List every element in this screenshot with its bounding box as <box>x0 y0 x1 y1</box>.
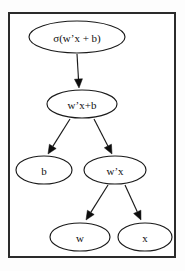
graph-node-wx[interactable]: w’x <box>84 156 146 184</box>
node-label-b: b <box>41 165 47 177</box>
arrowhead-icon <box>134 210 141 220</box>
node-label-w: w <box>76 232 84 244</box>
edge-line <box>125 185 137 212</box>
node-label-x: x <box>142 232 148 244</box>
arrowhead-icon <box>104 144 112 154</box>
node-label-wx: w’x <box>106 165 124 177</box>
figure-root: σ(w’x + b)w’x+bbw’xwx <box>0 0 185 271</box>
graph-node-x[interactable]: x <box>118 223 172 251</box>
edge-wxplusb-to-wx <box>94 119 112 154</box>
edge-line <box>94 119 108 146</box>
edge-wx-to-w <box>86 185 108 220</box>
graph-node-wxplusb[interactable]: w’x+b <box>47 90 117 118</box>
graph-node-sigma[interactable]: σ(w’x + b) <box>29 21 125 53</box>
edge-sigma-to-wxplusb <box>74 54 82 88</box>
node-label-sigma: σ(w’x + b) <box>53 32 101 45</box>
node-label-wxplusb: w’x+b <box>68 99 97 111</box>
edges-layer <box>48 54 141 220</box>
edge-wx-to-x <box>125 185 141 220</box>
computation-graph-canvas: σ(w’x + b)w’x+bbw’xwx <box>0 0 185 271</box>
edge-wxplusb-to-b <box>48 119 70 154</box>
edge-line <box>53 119 70 146</box>
arrowhead-icon <box>74 79 82 88</box>
graph-node-b[interactable]: b <box>16 156 72 184</box>
edge-line <box>91 185 108 212</box>
arrowhead-icon <box>86 210 94 220</box>
nodes-layer: σ(w’x + b)w’x+bbw’xwx <box>16 21 172 251</box>
graph-node-w[interactable]: w <box>50 223 110 251</box>
edge-line <box>77 54 78 79</box>
arrowhead-icon <box>48 144 56 154</box>
